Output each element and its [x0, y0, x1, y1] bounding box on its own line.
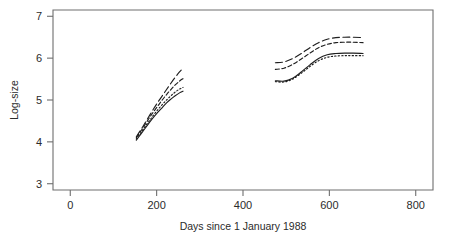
series-line-long-dash-2 — [275, 37, 363, 63]
plot-frame — [53, 10, 433, 190]
line-chart-svg: 0200400600800 34567 Days since 1 January… — [0, 0, 451, 242]
x-axis-title: Days since 1 January 1988 — [180, 220, 307, 232]
y-tick-label: 7 — [36, 10, 42, 22]
x-tick-label: 200 — [147, 199, 165, 211]
x-tick-label: 600 — [320, 199, 338, 211]
y-axis-tick-labels: 34567 — [36, 10, 42, 189]
data-series-group — [136, 37, 363, 140]
series-line-dotted-2 — [275, 56, 363, 83]
y-tick-label: 4 — [36, 136, 42, 148]
x-tick-label: 800 — [407, 199, 425, 211]
y-axis-ticks — [47, 16, 53, 183]
series-line-solid-2 — [275, 53, 363, 81]
axes-frame — [53, 10, 433, 190]
x-tick-label: 0 — [67, 199, 73, 211]
y-tick-label: 5 — [36, 94, 42, 106]
x-tick-label: 400 — [234, 199, 252, 211]
chart-figure: 0200400600800 34567 Days since 1 January… — [0, 0, 451, 242]
y-axis-title: Log-size — [8, 80, 20, 120]
x-axis-tick-labels: 0200400600800 — [67, 199, 425, 211]
y-tick-label: 6 — [36, 52, 42, 64]
y-tick-label: 3 — [36, 178, 42, 190]
x-axis-ticks — [70, 190, 415, 196]
